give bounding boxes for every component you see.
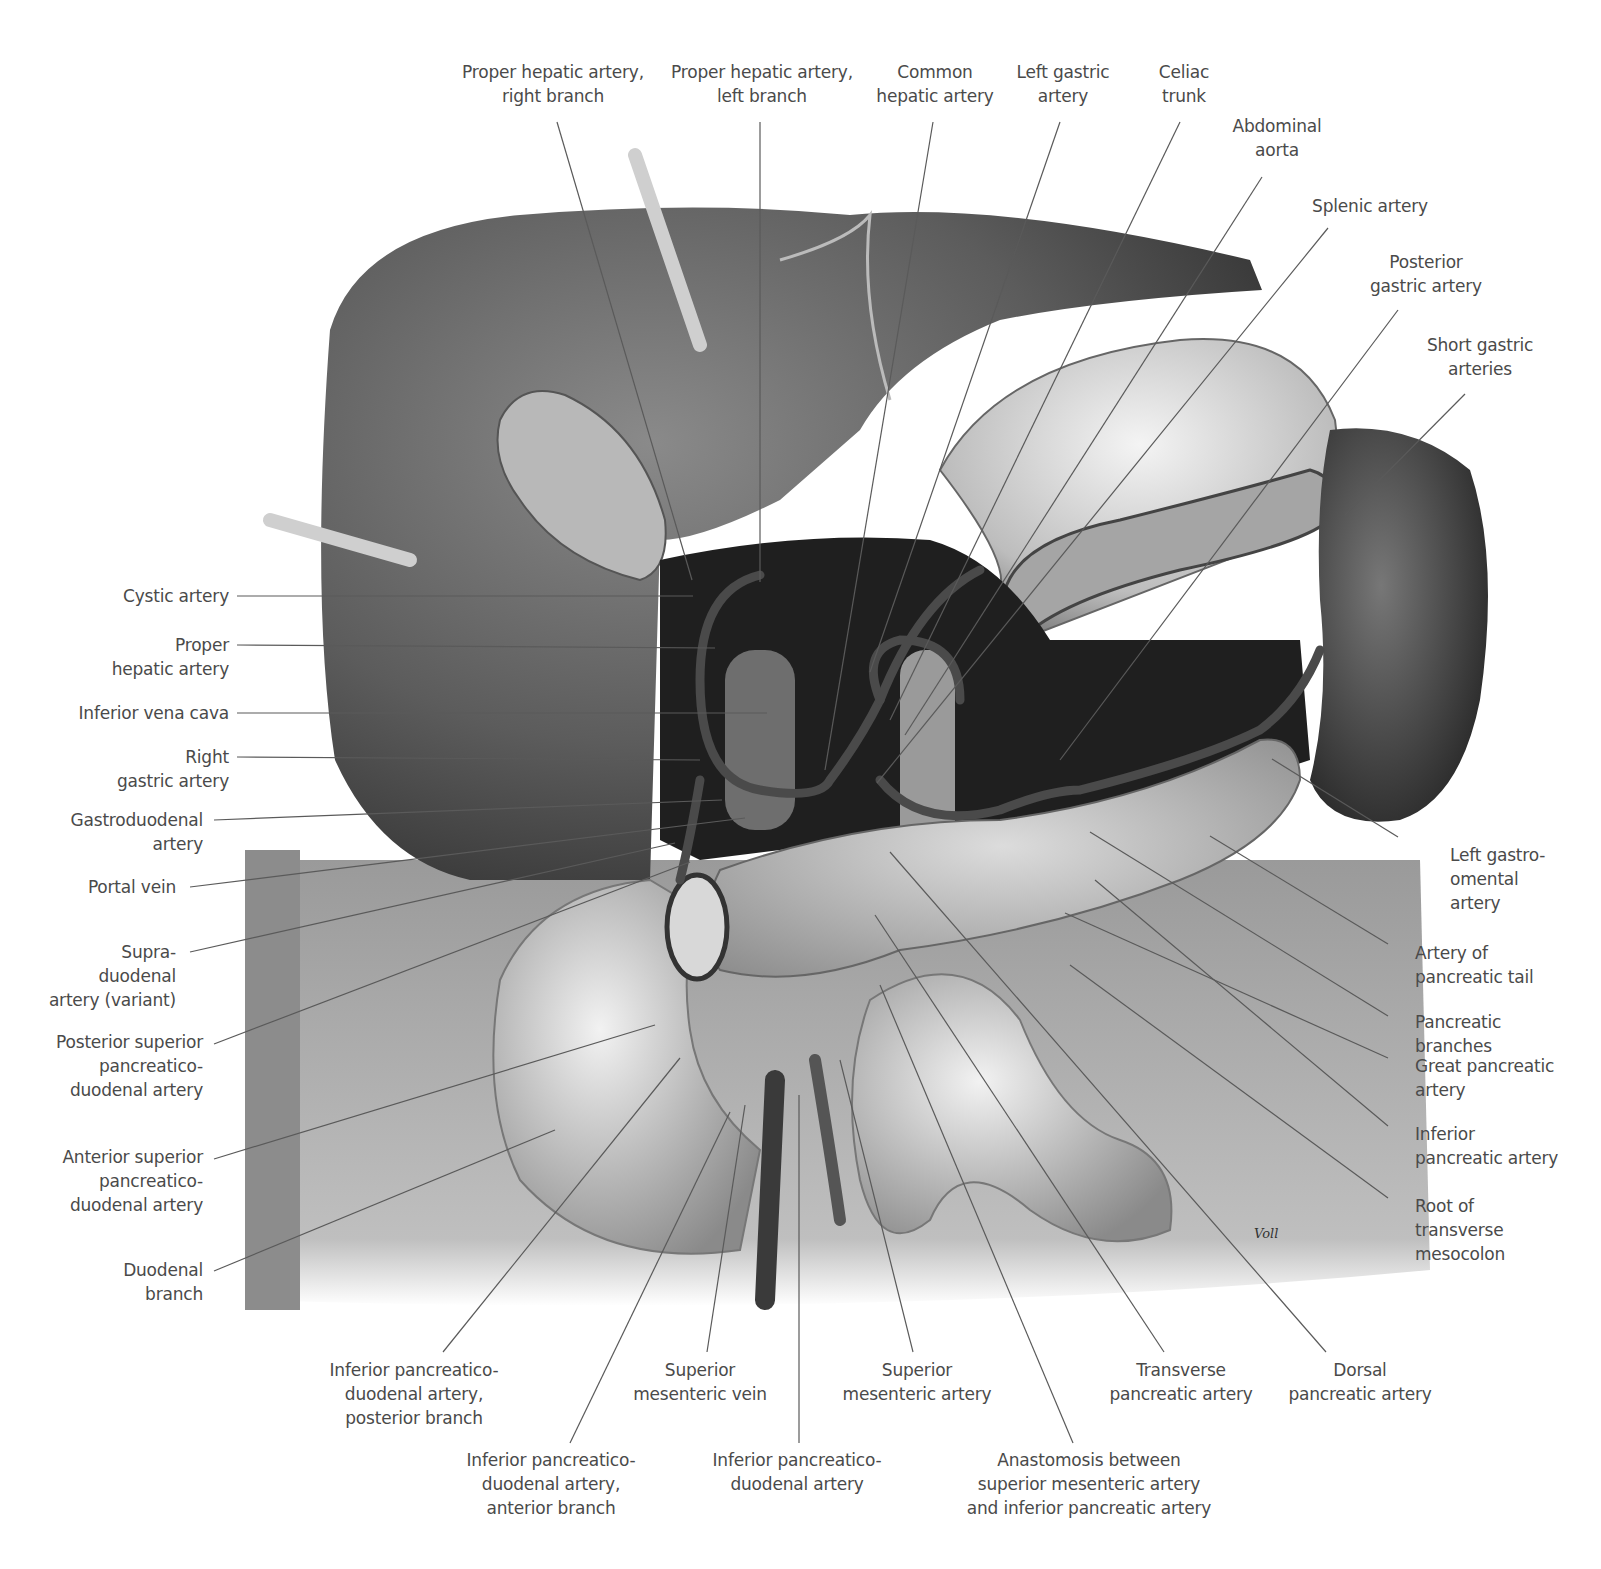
duodenum-cut-end xyxy=(667,875,727,979)
illustrator-signature: Voll xyxy=(1254,1226,1278,1241)
abdominal-aorta xyxy=(900,650,955,850)
label-pancreatic-branches: Pancreatic branches xyxy=(1415,1010,1501,1058)
label-superior-mesenteric-vein: Superior mesenteric vein xyxy=(633,1358,767,1406)
label-root-of-transverse-mesocolon: Root of transverse mesocolon xyxy=(1415,1194,1505,1266)
label-gastroduodenal-artery: Gastroduodenal artery xyxy=(71,808,203,856)
label-proper-hepatic-artery-left-branch: Proper hepatic artery, left branch xyxy=(671,60,853,108)
label-inferior-pancreaticoduodenal-artery: Inferior pancreatico- duodenal artery xyxy=(713,1448,882,1496)
label-anastomosis-sma-ipa: Anastomosis between superior mesenteric … xyxy=(967,1448,1211,1520)
label-great-pancreatic-artery: Great pancreatic artery xyxy=(1415,1054,1554,1102)
label-proper-hepatic-artery-right-branch: Proper hepatic artery, right branch xyxy=(462,60,644,108)
label-inferior-pancreatic-artery: Inferior pancreatic artery xyxy=(1415,1122,1558,1170)
label-dorsal-pancreatic-artery: Dorsal pancreatic artery xyxy=(1288,1358,1431,1406)
label-splenic-artery: Splenic artery xyxy=(1312,194,1428,218)
inferior-vena-cava xyxy=(725,650,795,830)
label-left-gastric-artery: Left gastric artery xyxy=(1017,60,1110,108)
label-left-gastroomental-artery: Left gastro- omental artery xyxy=(1450,843,1545,915)
label-right-gastric-artery: Right gastric artery xyxy=(117,745,229,793)
label-common-hepatic-artery: Common hepatic artery xyxy=(876,60,993,108)
label-short-gastric-arteries: Short gastric arteries xyxy=(1427,333,1533,381)
label-inferior-pancreaticoduodenal-posterior-branch: Inferior pancreatico- duodenal artery, p… xyxy=(330,1358,499,1430)
label-supraduodenal-artery: Supra- duodenal artery (variant) xyxy=(49,940,176,1012)
anatomy-figure: Proper hepatic artery, right branch Prop… xyxy=(0,0,1601,1569)
label-inferior-vena-cava: Inferior vena cava xyxy=(79,701,230,725)
spleen xyxy=(1310,428,1488,821)
anatomical-illustration xyxy=(0,0,1601,1569)
label-celiac-trunk: Celiac trunk xyxy=(1159,60,1209,108)
label-portal-vein: Portal vein xyxy=(88,875,176,899)
right-abdominal-wall xyxy=(245,850,300,1310)
label-superior-mesenteric-artery: Superior mesenteric artery xyxy=(843,1358,992,1406)
label-posterior-superior-pancreaticoduodenal-artery: Posterior superior pancreatico- duodenal… xyxy=(56,1030,203,1102)
label-artery-of-pancreatic-tail: Artery of pancreatic tail xyxy=(1415,941,1534,989)
label-transverse-pancreatic-artery: Transverse pancreatic artery xyxy=(1109,1358,1252,1406)
label-anterior-superior-pancreaticoduodenal-artery: Anterior superior pancreatico- duodenal … xyxy=(62,1145,203,1217)
label-inferior-pancreaticoduodenal-anterior-branch: Inferior pancreatico- duodenal artery, a… xyxy=(467,1448,636,1520)
label-proper-hepatic-artery: Proper hepatic artery xyxy=(112,633,229,681)
superior-mesenteric-vein xyxy=(765,1080,775,1300)
label-posterior-gastric-artery: Posterior gastric artery xyxy=(1370,250,1482,298)
label-duodenal-branch: Duodenal branch xyxy=(123,1258,203,1306)
label-abdominal-aorta: Abdominal aorta xyxy=(1232,114,1321,162)
label-cystic-artery: Cystic artery xyxy=(123,584,229,608)
